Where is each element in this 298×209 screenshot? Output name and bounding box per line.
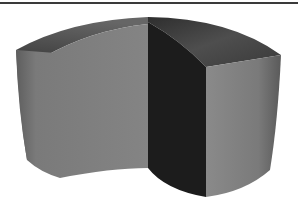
cylinder-wedge-render [0,0,298,209]
right-face [206,55,281,197]
left-face-lower [16,50,148,178]
